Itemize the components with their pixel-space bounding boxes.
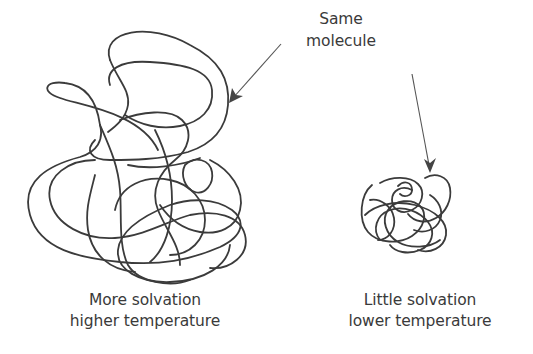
small-coil-caption-line-2: lower temperature <box>334 311 506 332</box>
small-coil-caption: Little solvation lower temperature <box>334 290 506 332</box>
small-coil-caption-line-1: Little solvation <box>334 290 506 311</box>
large-coil <box>28 32 246 284</box>
callout-line-2: molecule <box>296 30 386 52</box>
callout-line-1: Same <box>296 8 386 30</box>
large-coil-caption-line-1: More solvation <box>50 290 240 311</box>
same-molecule-callout: Same molecule <box>296 8 386 52</box>
arrow-to-small-coil <box>412 74 436 173</box>
large-coil-caption-line-2: higher temperature <box>50 311 240 332</box>
small-coil <box>362 175 451 252</box>
arrow-to-large-coil <box>229 44 281 103</box>
large-coil-caption: More solvation higher temperature <box>50 290 240 332</box>
